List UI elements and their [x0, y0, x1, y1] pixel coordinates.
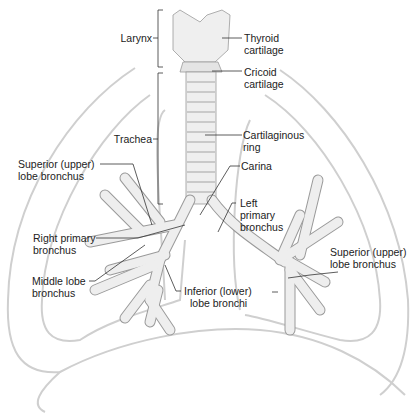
label-carina: Carina — [241, 160, 272, 172]
label-superior-lobe-bronchus-right: Superior (upper) lobe bronchus — [18, 158, 94, 182]
label-superior-lobe-bronchus-right-line1: Superior (upper) — [18, 158, 94, 170]
label-cricoid-cartilage-line2: cartilage — [244, 78, 284, 90]
label-left-primary-bronchus-line3: bronchus — [240, 221, 283, 233]
label-middle-lobe-bronchus-line2: bronchus — [32, 287, 86, 299]
label-trachea: Trachea — [100, 133, 152, 145]
label-cricoid-cartilage: Cricoid cartilage — [244, 66, 284, 90]
respiratory-anatomy-diagram: Larynx Thyroid cartilage Cricoid cartila… — [0, 0, 415, 414]
trachea-shape — [186, 72, 216, 204]
anatomy-illustration — [0, 0, 415, 414]
label-thyroid-cartilage: Thyroid cartilage — [244, 32, 284, 56]
label-right-primary-bronchus-line2: bronchus — [33, 244, 95, 256]
label-superior-lobe-bronchus-left: Superior (upper) lobe bronchus — [330, 246, 406, 270]
label-inferior-lobe-bronchi-line1: Inferior (lower) — [184, 285, 252, 297]
label-cartilaginous-ring-line1: Cartilaginous — [243, 129, 304, 141]
label-inferior-lobe-bronchi: Inferior (lower) lobe bronchi — [184, 285, 252, 309]
label-cartilaginous-ring: Cartilaginous ring — [243, 129, 304, 153]
label-thyroid-cartilage-line1: Thyroid — [244, 32, 284, 44]
label-middle-lobe-bronchus-line1: Middle lobe — [32, 275, 86, 287]
label-right-primary-bronchus-line1: Right primary — [33, 232, 95, 244]
label-cartilaginous-ring-line2: ring — [243, 141, 304, 153]
label-left-primary-bronchus-line2: primary — [240, 209, 283, 221]
label-superior-lobe-bronchus-right-line2: lobe bronchus — [18, 170, 94, 182]
label-superior-lobe-bronchus-left-line2: lobe bronchus — [330, 258, 406, 270]
label-right-primary-bronchus: Right primary bronchus — [33, 232, 95, 256]
label-left-primary-bronchus: Left primary bronchus — [240, 197, 283, 233]
label-cricoid-cartilage-line1: Cricoid — [244, 66, 284, 78]
label-larynx: Larynx — [116, 32, 152, 44]
label-middle-lobe-bronchus: Middle lobe bronchus — [32, 275, 86, 299]
label-inferior-lobe-bronchi-line2: lobe bronchi — [184, 297, 252, 309]
label-left-primary-bronchus-line1: Left — [240, 197, 283, 209]
label-thyroid-cartilage-line2: cartilage — [244, 44, 284, 56]
larynx-shape — [173, 10, 230, 72]
label-superior-lobe-bronchus-left-line1: Superior (upper) — [330, 246, 406, 258]
